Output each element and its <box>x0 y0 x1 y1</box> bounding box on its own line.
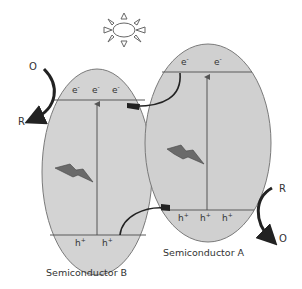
left-oxidized-label: O <box>29 61 37 72</box>
right-reduced-label: R <box>279 183 286 194</box>
semiconductor-b-label: Semiconductor B <box>46 267 127 278</box>
hole-transfer-arrowhead <box>161 204 170 211</box>
left-reduced-label: R <box>18 116 25 127</box>
diagram-canvas: e- e- e- e- e- h+ h+ h+ h+ h+ O R R O Se… <box>0 0 302 289</box>
semiconductor-a-label: Semiconductor A <box>163 247 245 258</box>
left-redox-arrow <box>34 69 54 119</box>
sun-icon <box>104 13 145 47</box>
right-oxidized-label: O <box>279 233 287 244</box>
